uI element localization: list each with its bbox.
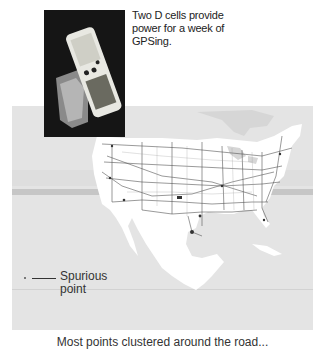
map-panel xyxy=(12,106,313,330)
spurious-point-label: Spurious point xyxy=(60,270,120,296)
gps-device-icon xyxy=(44,10,125,137)
photo-caption: Two D cells provide power for a week of … xyxy=(132,9,232,48)
gps-device-photo xyxy=(44,10,125,137)
label-line-2: point xyxy=(60,283,120,296)
figure-caption: Most points clustered around the road... xyxy=(0,335,325,349)
annotation-leader-line xyxy=(32,278,56,279)
spurious-point-marker xyxy=(24,277,26,279)
us-highway-map xyxy=(12,106,313,330)
